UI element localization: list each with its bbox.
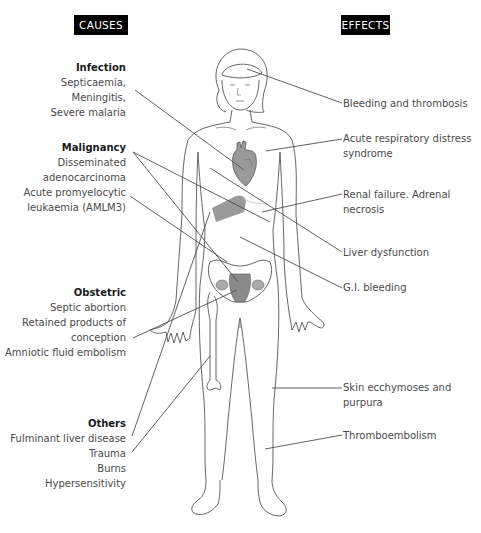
thromboembolism-line: [265, 435, 342, 449]
effect-liver: Liver dysfunction: [343, 245, 429, 260]
left-shoulder: [182, 110, 232, 215]
others-line-1: [132, 212, 210, 436]
right-ovary: [252, 280, 264, 290]
effect-leader-lines: [210, 69, 342, 449]
effect-text: Acute respiratory distress: [343, 131, 471, 146]
cause-item: adenocarcinoma: [24, 170, 126, 185]
cause-item: Disseminated: [24, 155, 126, 170]
cause-title: Infection: [50, 60, 126, 75]
malignancy-line-3: [130, 196, 227, 262]
bleeding-line: [247, 69, 342, 103]
effect-text: syndrome: [343, 146, 471, 161]
cause-item: leukaemia (AMLM3): [24, 200, 126, 215]
dic-diagram: CAUSES EFFECTS Infection Septicaemia, Me…: [0, 0, 481, 533]
inner-legs: [240, 318, 258, 480]
effect-text: Bleeding and thrombosis: [343, 96, 468, 111]
effect-text: Renal failure. Adrenal: [343, 187, 450, 202]
cause-item: Trauma: [10, 446, 126, 461]
effect-text: Skin ecchymoses and: [343, 380, 451, 395]
effect-text: G.I. bleeding: [343, 280, 406, 295]
cause-item: Retained products of: [5, 315, 126, 330]
others-line-2: [132, 356, 210, 452]
left-hand: [150, 330, 190, 343]
effect-text: Thromboembolism: [343, 428, 437, 443]
cause-item: Hypersensitivity: [10, 476, 126, 491]
effect-skin: Skin ecchymoses and purpura: [343, 380, 451, 410]
effects-header: EFFECTS: [341, 15, 390, 35]
cause-leader-lines: [130, 90, 270, 452]
effect-ards: Acute respiratory distress syndrome: [343, 131, 471, 161]
cause-item: Septic abortion: [5, 300, 126, 315]
cause-item: Acute promyelocytic: [24, 185, 126, 200]
cause-infection: Infection Septicaemia, Meningitis, Sever…: [50, 60, 126, 120]
effect-text: Liver dysfunction: [343, 245, 429, 260]
effect-renal: Renal failure. Adrenal necrosis: [343, 187, 450, 217]
left-ovary: [216, 280, 228, 290]
effect-gi: G.I. bleeding: [343, 280, 406, 295]
cause-malignancy: Malignancy Disseminated adenocarcinoma A…: [24, 140, 126, 215]
left-arm: [150, 215, 182, 330]
cause-item: Fulminant liver disease: [10, 431, 126, 446]
obstetric-line: [133, 290, 237, 338]
effect-bleeding: Bleeding and thrombosis: [343, 96, 468, 111]
heart-icon: [233, 141, 257, 186]
diaphragm-shade: [246, 200, 268, 204]
cause-obstetric: Obstetric Septic abortion Retained produ…: [5, 285, 126, 360]
cause-item: Meningitis,: [50, 90, 126, 105]
cause-item: Septicaemia,: [50, 75, 126, 90]
cause-item: Severe malaria: [50, 105, 126, 120]
right-leg: [258, 285, 286, 516]
right-shoulder: [250, 110, 296, 215]
effect-thromboembolism: Thromboembolism: [343, 428, 437, 443]
effect-text: purpura: [343, 395, 451, 410]
liver-shape: [212, 195, 246, 222]
cause-item: Amniotic fluid embolism: [5, 345, 126, 360]
forehead-hairline: [222, 64, 262, 78]
effect-text: necrosis: [343, 202, 450, 217]
causes-header: CAUSES: [74, 15, 128, 35]
uterus-icon: [229, 274, 250, 302]
cause-title: Obstetric: [5, 285, 126, 300]
hair-outline: [216, 49, 267, 112]
renal-line: [262, 194, 342, 212]
cause-item: conception: [5, 330, 126, 345]
cause-title: Others: [10, 416, 126, 431]
cause-item: Burns: [10, 461, 126, 476]
torso-left: [198, 152, 205, 285]
ards-line: [266, 139, 342, 151]
torso-right: [273, 152, 280, 285]
cause-others: Others Fulminant liver disease Trauma Bu…: [10, 416, 126, 491]
cause-title: Malignancy: [24, 140, 126, 155]
femur-bone: [207, 292, 221, 390]
